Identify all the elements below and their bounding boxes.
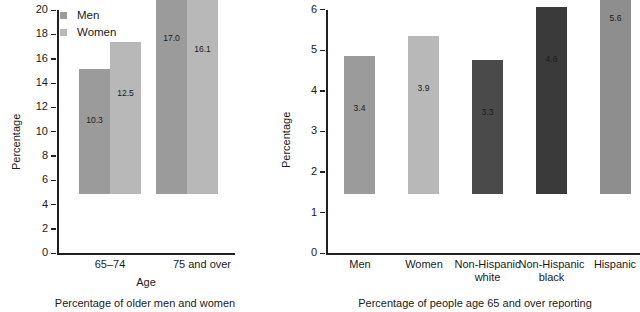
left-chart-caption: Percentage of older men and women <box>0 297 290 310</box>
bar-value-hispanic: 5.6 <box>598 14 633 23</box>
right-category-label-men-line1: Men <box>326 258 394 271</box>
bar-hispanic[interactable] <box>600 0 631 194</box>
left-plot-area: 10.3 12.5 17.0 16.1 <box>0 0 300 253</box>
legend-swatch-icon-men <box>60 12 67 19</box>
right-category-label-nhb-line1: Non-Hispanic <box>512 258 591 271</box>
right-category-label-hispanic: Hispanic <box>581 258 640 271</box>
legend-label-women: Women <box>77 25 116 39</box>
legend-label-men: Men <box>77 8 99 22</box>
right-x-axis-line <box>326 253 640 255</box>
bar-men-65-74[interactable] <box>79 69 110 194</box>
left-category-label-75-over: 75 and over <box>152 258 252 271</box>
bar-value-men-75-over: 17.0 <box>154 34 189 43</box>
left-x-axis-line <box>57 253 235 255</box>
right-category-label-nhb-line2: black <box>512 271 591 284</box>
bar-men-75-over[interactable] <box>156 0 187 194</box>
bar-value-men-65-74: 10.3 <box>77 116 112 125</box>
left-category-label-65-74: 65–74 <box>80 258 140 271</box>
bar-value-men: 3.4 <box>342 104 377 113</box>
bar-value-non-hispanic-white: 3.3 <box>470 108 505 117</box>
right-category-label-non-hispanic-black: Non-Hispanic black <box>512 258 591 283</box>
bar-women[interactable] <box>408 36 439 194</box>
legend-swatch-icon-women <box>60 29 67 36</box>
figure-page: Percentage 0 2 4 6 8 10 12 14 16 <box>0 0 640 312</box>
bar-value-women-65-74: 12.5 <box>108 89 143 98</box>
right-category-label-men: Men <box>326 258 394 271</box>
left-bar-chart: Percentage 0 2 4 6 8 10 12 14 16 <box>0 0 300 312</box>
right-plot-area: 3.4 3.9 3.3 4.6 5.6 <box>268 0 640 253</box>
bar-non-hispanic-white[interactable] <box>472 60 503 194</box>
bar-value-women: 3.9 <box>406 84 441 93</box>
bar-value-women-75-over: 16.1 <box>185 45 220 54</box>
right-category-label-hispanic-line1: Hispanic <box>581 258 640 271</box>
right-chart-caption: Percentage of people age 65 and over rep… <box>310 297 640 310</box>
left-x-axis-title: Age <box>96 276 196 288</box>
bar-men[interactable] <box>344 56 375 194</box>
bar-women-75-over[interactable] <box>187 0 218 194</box>
right-bar-chart: Percentage 0 1 2 3 4 5 6 3.4 3.9 <box>268 0 640 312</box>
bar-value-non-hispanic-black: 4.6 <box>534 55 569 64</box>
bar-non-hispanic-black[interactable] <box>536 7 567 194</box>
bar-women-65-74[interactable] <box>110 42 141 194</box>
